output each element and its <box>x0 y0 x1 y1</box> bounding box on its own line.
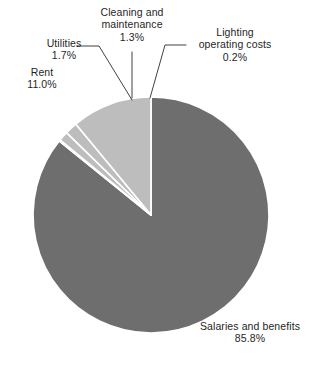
slice-label-rent-line1: Rent <box>10 66 74 78</box>
slice-label-lighting-operating-costs: Lighting operating costs 0.2% <box>189 26 281 63</box>
slice-label-lighting-line1: Lighting <box>189 26 281 38</box>
slice-label-cleaning-line1: Cleaning and <box>86 6 178 18</box>
slice-label-salaries-and-benefits: Salaries and benefits 85.8% <box>186 320 314 345</box>
slice-label-utilities-line1: Utilities <box>31 37 97 49</box>
slice-label-lighting-line2: operating costs <box>189 38 281 50</box>
slice-label-utilities: Utilities 1.7% <box>31 37 97 62</box>
leader-line-lighting <box>150 45 186 98</box>
slice-label-cleaning-line2: maintenance <box>86 18 178 30</box>
slice-label-rent: Rent 11.0% <box>10 66 74 91</box>
slice-value-lighting: 0.2% <box>189 51 281 63</box>
slice-label-salaries-line1: Salaries and benefits <box>186 320 314 332</box>
slice-value-cleaning: 1.3% <box>86 31 178 43</box>
slice-value-rent: 11.0% <box>10 78 74 90</box>
pie-chart: Cleaning and maintenance 1.3% Lighting o… <box>0 0 319 366</box>
slice-value-salaries: 85.8% <box>186 332 314 344</box>
slice-label-cleaning-and-maintenance: Cleaning and maintenance 1.3% <box>86 6 178 43</box>
slice-value-utilities: 1.7% <box>31 49 97 61</box>
